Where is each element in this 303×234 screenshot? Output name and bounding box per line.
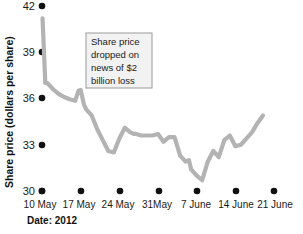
y-tick-label: 42 [23,0,35,12]
annotation-line: dropped on [91,49,139,60]
x-tick-dot [194,188,201,195]
x-tick-dot [78,188,85,195]
annotation-line: Share price [91,36,140,47]
x-tick-label: 7 June [181,199,211,210]
x-tick-label: 14 June [218,199,254,210]
x-tick-dot [271,188,278,195]
x-tick-label: 24 May [102,199,135,210]
y-tick-label: 39 [23,46,35,58]
y-tick-label: 33 [23,139,35,151]
x-axis-title: Date: 2012 [27,215,77,226]
x-tick-label: 10 May [24,199,57,210]
y-tick-label: 36 [23,92,35,104]
x-tick-dot [117,188,124,195]
annotation-callout: Share price dropped on news of $2 billio… [86,33,152,88]
x-tick-dot [233,188,240,195]
y-tick-dot [39,142,46,149]
annotation-line: news of $2 [91,62,137,73]
y-axis-title: Share price (dollars per share) [3,36,15,188]
y-tick-label: 30 [23,185,35,197]
annotation-line: billion loss [91,75,135,86]
share-price-line-chart: Share price (dollars per share) 42 39 36… [0,0,303,234]
x-tick-dot [39,188,46,195]
x-tick-label: 31May [142,199,172,210]
y-tick-dot [39,95,46,102]
x-tick-label: 21 June [257,199,293,210]
x-tick-label: 17 May [63,199,96,210]
x-axis-tick-labels: 10 May 17 May 24 May 31May 7 June 14 Jun… [24,199,294,210]
y-tick-dot [39,3,46,10]
x-tick-dot [156,188,163,195]
